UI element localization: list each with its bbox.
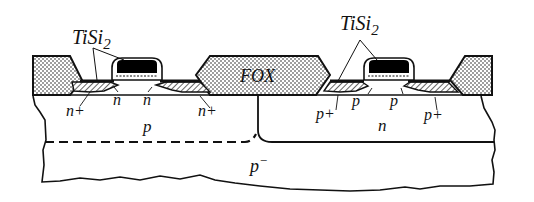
n-well-label: n [378, 116, 387, 135]
nmos-source-n-plus [72, 82, 118, 92]
pmos-source-p-plus [324, 82, 368, 92]
nmos-gate [112, 58, 162, 80]
pmos-drain-p-plus [404, 82, 458, 92]
tisi2-left-label: TiSi2 [72, 26, 111, 52]
pmos-ldd-left-label: p [351, 92, 360, 110]
p-well-label: p [142, 117, 152, 136]
field-oxide-right [450, 56, 492, 95]
nmos-ldd-right-label: n [143, 91, 151, 108]
tisi2-right-label: TiSi2 [340, 12, 379, 38]
substrate-label: p− [248, 153, 268, 176]
nmos-ldd-left-label: n [113, 91, 121, 108]
fox-label: FOX [239, 66, 276, 86]
nmos-drain-label: n+ [198, 102, 217, 119]
cmos-cross-section-diagram: TiSi2 TiSi2 FOX n+ n n n+ p+ p p p+ p n … [0, 0, 534, 202]
nmos-source-label: n+ [66, 102, 85, 119]
pmos-gate [364, 58, 414, 80]
nmos-drain-n-plus [156, 82, 210, 92]
pmos-drain-label: p+ [423, 106, 443, 124]
n-well-boundary [258, 95, 494, 142]
pmos-ldd-right-label: p [389, 92, 398, 110]
pmos-source-label: p+ [315, 105, 335, 123]
